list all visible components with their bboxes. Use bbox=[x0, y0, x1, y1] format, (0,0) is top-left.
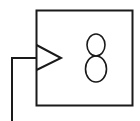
block-outline bbox=[37, 11, 133, 106]
register-block: 8 bbox=[37, 11, 133, 106]
diagram-canvas: 8 bbox=[0, 0, 140, 121]
block-label: 8 bbox=[86, 34, 107, 82]
clock-wire bbox=[12, 58, 37, 121]
block-label-text: 8 bbox=[96, 79, 97, 81]
clock-input-triangle-icon bbox=[37, 45, 62, 70]
